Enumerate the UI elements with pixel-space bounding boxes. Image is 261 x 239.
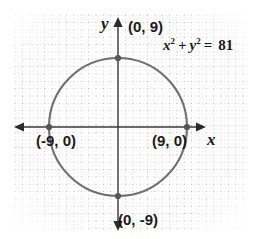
equation-operator: + xyxy=(178,37,187,53)
y-axis-label: y xyxy=(101,15,109,32)
point-label-left: (-9, 0) xyxy=(36,133,76,148)
equation-annotation: x2+y2=81 xyxy=(163,38,236,53)
circle-graph-figure: (0, 9) (0, -9) (-9, 0) (9, 0) x y x2+y2=… xyxy=(0,0,261,239)
coordinate-plane-svg xyxy=(0,0,261,239)
x-axis-label: x xyxy=(207,131,216,148)
equation-rhs: 81 xyxy=(218,37,233,53)
point-label-bottom: (0, -9) xyxy=(118,212,158,227)
equation-exp-x: 2 xyxy=(171,36,176,46)
point-label-top: (0, 9) xyxy=(128,19,163,34)
equation-exp-y: 2 xyxy=(196,36,201,46)
equation-equals: = xyxy=(204,37,213,53)
equation-var-x: x xyxy=(163,37,171,53)
point-label-right: (9, 0) xyxy=(152,133,187,148)
